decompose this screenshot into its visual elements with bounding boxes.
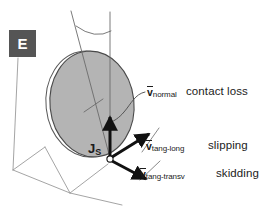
vector-label-tang-long: vtang-long: [146, 141, 184, 153]
vector-symbol-tang-long: v: [146, 141, 152, 152]
panel-marker-label: E: [17, 36, 27, 51]
vector-subscript-normal: normal: [153, 90, 177, 99]
vector-overbar-tang-transv: [140, 168, 146, 169]
ground-edge-left-front: [13, 170, 70, 193]
contact-point-label: JS: [88, 142, 101, 157]
vector-phrase-normal: contact loss: [186, 86, 248, 98]
panel-marker-e: E: [9, 30, 36, 57]
vector-label-normal: vnormal: [147, 87, 177, 99]
figure-canvas: E JS vnormal contact loss vtang-long sli…: [0, 0, 267, 220]
vector-phrase-slipping: slipping: [208, 140, 248, 152]
tilt-angle-arc: [76, 26, 111, 35]
ground-edge-front: [70, 193, 122, 205]
vector-symbol-tang-transv: v: [140, 169, 146, 180]
vector-symbol-tang-long-text: v: [146, 140, 152, 152]
ground-edge-right: [70, 164, 108, 193]
ground-edge-diagonal: [45, 147, 70, 193]
contact-point-marker: [107, 156, 113, 162]
contact-point-label-subscript: S: [95, 147, 101, 157]
diagram-svg: [0, 0, 267, 220]
vector-symbol-normal: v: [147, 87, 153, 98]
vector-subscript-tang-transv: tang-transv: [146, 172, 185, 181]
vector-symbol-tang-transv-text: v: [140, 168, 146, 180]
ground-edge-left-back: [13, 147, 45, 170]
vector-phrase-skidding: skidding: [216, 168, 259, 180]
vector-label-tang-transv: vtang-transv: [140, 169, 185, 181]
vector-overbar-tang-long: [146, 140, 152, 141]
vector-symbol-normal-text: v: [147, 86, 153, 98]
vector-overbar-normal: [147, 86, 153, 87]
frame-vertical-line: [13, 58, 18, 170]
vector-subscript-tang-long: tang-long: [152, 144, 184, 153]
